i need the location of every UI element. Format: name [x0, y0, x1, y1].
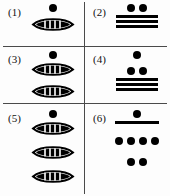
- dot-row: [125, 4, 149, 12]
- cell-4-label: (4): [93, 54, 106, 65]
- dot-row: [125, 67, 149, 75]
- cell-4: (4): [85, 47, 170, 103]
- dot-glyph: [139, 158, 147, 166]
- cell-5-label: (5): [8, 113, 21, 124]
- bar-glyph: [116, 15, 158, 18]
- cell-1-numeral: [26, 4, 80, 36]
- cell-5-numeral: [26, 110, 80, 188]
- dot-row: [47, 51, 59, 59]
- dot-glyph: [127, 67, 135, 75]
- dot-glyph: [133, 51, 141, 59]
- shell-row: [31, 62, 75, 81]
- shell-zero-glyph: [31, 121, 75, 140]
- shell-zero-glyph: [31, 169, 75, 188]
- dot-glyph: [49, 110, 57, 118]
- bar-glyph: [116, 88, 158, 91]
- cell-3: (3): [0, 47, 84, 103]
- shell-zero-glyph: [31, 62, 75, 81]
- dot-row: [131, 51, 143, 59]
- dot-glyph: [115, 137, 123, 145]
- dot-glyph: [127, 137, 135, 145]
- bar-glyph: [116, 25, 158, 28]
- cell-1-label: (1): [8, 7, 21, 18]
- bar-glyph: [116, 20, 158, 23]
- shell-zero-glyph: [31, 145, 75, 164]
- dot-glyph: [139, 4, 147, 12]
- cell-6-numeral: [107, 110, 166, 166]
- bar-glyph: [116, 83, 158, 86]
- shell-row: [31, 17, 75, 36]
- dot-row: [113, 137, 161, 145]
- shell-row: [31, 169, 75, 188]
- shell-row: [31, 84, 75, 103]
- dot-glyph: [139, 137, 147, 145]
- cell-1: (1): [0, 0, 84, 46]
- dot-row: [47, 4, 59, 12]
- dot-glyph: [49, 4, 57, 12]
- dot-glyph: [139, 67, 147, 75]
- dot-glyph: [151, 137, 159, 145]
- cell-3-numeral: [26, 51, 80, 103]
- cell-2-label: (2): [93, 7, 106, 18]
- dot-glyph: [127, 4, 135, 12]
- dot-row: [125, 158, 149, 166]
- cell-3-label: (3): [8, 54, 21, 65]
- cell-5: (5): [0, 104, 84, 196]
- shell-zero-glyph: [31, 17, 75, 36]
- cell-4-numeral: [107, 51, 166, 91]
- dot-glyph: [49, 51, 57, 59]
- cell-6: (6): [85, 104, 170, 196]
- dot-glyph: [127, 158, 135, 166]
- shell-row: [31, 145, 75, 164]
- dot-row: [131, 110, 143, 118]
- cell-2-numeral: [107, 4, 166, 28]
- shell-zero-glyph: [31, 84, 75, 103]
- cell-6-label: (6): [93, 113, 106, 124]
- shell-row: [31, 121, 75, 140]
- bar-glyph: [115, 121, 159, 124]
- bar-glyph: [116, 78, 158, 81]
- dot-row: [47, 110, 59, 118]
- mayan-numerals-figure: (1): [0, 0, 170, 196]
- dot-glyph: [133, 110, 141, 118]
- cell-2: (2): [85, 0, 170, 46]
